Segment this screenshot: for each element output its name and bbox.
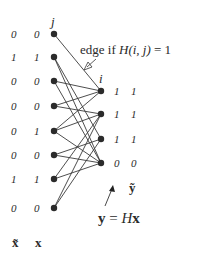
x-tilde-bit: 0	[11, 150, 17, 161]
y-tilde-bit: 1	[131, 134, 137, 145]
x-tilde-bit: 0	[11, 101, 17, 112]
x-tilde-label: x̃	[12, 236, 19, 249]
equation-eq: =	[106, 210, 122, 226]
y-bit: 1	[114, 86, 120, 97]
graph-edge	[54, 139, 101, 208]
variable-node	[51, 128, 57, 134]
equation-label: y = Hx	[98, 211, 140, 226]
graph-edge	[54, 163, 101, 179]
equation-lhs: y	[98, 210, 106, 226]
annotation-arrow-edge	[84, 59, 96, 70]
x-bit: 0	[34, 76, 40, 87]
edge-annotation: edge if H(i, j) = 1	[80, 43, 171, 56]
y-tilde-bit: 0	[131, 158, 137, 169]
x-label: x	[35, 236, 42, 249]
y-bit: 1	[114, 134, 120, 145]
variable-node	[51, 54, 57, 60]
x-bit: 1	[34, 126, 40, 137]
variable-node	[51, 78, 57, 84]
y-tilde-label: ỹ	[129, 181, 136, 194]
edge-annotation-func: H	[119, 42, 128, 57]
check-node	[98, 160, 104, 166]
variable-node	[51, 205, 57, 211]
x-bit: 0	[34, 29, 40, 40]
variable-node	[51, 152, 57, 158]
y-bit: 1	[114, 109, 120, 120]
x-tilde-bit: 1	[11, 52, 17, 63]
annotation-arrow-equation	[105, 185, 115, 206]
x-bit: 0	[34, 101, 40, 112]
equation-matrix: H	[121, 210, 132, 226]
graph-edge	[54, 57, 101, 139]
edge-annotation-args: (i, j)	[128, 42, 150, 57]
x-bit: 0	[34, 203, 40, 214]
edges	[54, 34, 101, 208]
y-bit: 0	[114, 158, 120, 169]
edge-annotation-prefix: edge if	[80, 42, 119, 57]
arrowhead-icon	[109, 185, 115, 192]
edge-annotation-rhs: = 1	[151, 42, 171, 57]
left-index-label: j	[51, 15, 55, 28]
y-tilde-bit: 1	[131, 86, 137, 97]
x-bit: 1	[34, 174, 40, 185]
x-tilde-bit: 1	[11, 174, 17, 185]
x-tilde-bit: 0	[11, 203, 17, 214]
x-tilde-bit: 0	[11, 29, 17, 40]
graph-edge	[54, 106, 101, 114]
check-node	[98, 88, 104, 94]
graph-edge	[54, 91, 101, 131]
variable-node	[51, 103, 57, 109]
right-index-label: i	[99, 72, 103, 85]
variable-node	[51, 31, 57, 37]
x-tilde-bit: 0	[11, 126, 17, 137]
y-tilde-bit: 1	[131, 109, 137, 120]
check-node	[98, 136, 104, 142]
x-bit: 0	[34, 150, 40, 161]
check-node	[98, 111, 104, 117]
equation-vector: x	[132, 210, 140, 226]
x-bit: 1	[34, 52, 40, 63]
x-tilde-bit: 0	[11, 76, 17, 87]
variable-node	[51, 176, 57, 182]
